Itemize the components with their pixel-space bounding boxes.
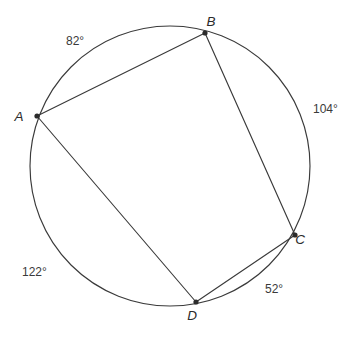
vertex-label-c: C — [295, 232, 305, 247]
chord-bc — [205, 33, 295, 235]
arc-measure-label-bc: 104° — [313, 102, 338, 116]
vertex-label-d: D — [187, 308, 197, 323]
vertex-label-b: B — [206, 14, 215, 29]
chord-da — [37, 116, 196, 302]
vertex-point-b — [202, 30, 207, 35]
circle-outline — [30, 26, 310, 306]
circle-geometry-diagram: A B C D 82° 104° 52° 122° — [0, 0, 359, 338]
arc-measure-label-da: 122° — [22, 265, 47, 279]
chord-ab — [37, 33, 205, 116]
vertex-point-a — [34, 113, 39, 118]
arc-measure-label-ab: 82° — [66, 34, 84, 48]
vertex-point-d — [193, 299, 198, 304]
vertex-label-a: A — [13, 109, 23, 124]
arc-measure-label-cd: 52° — [265, 282, 283, 296]
